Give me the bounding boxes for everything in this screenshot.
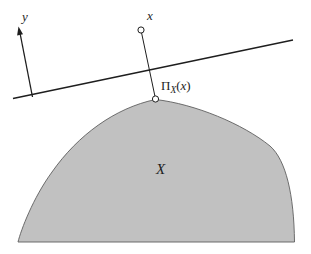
y-axis-line (20, 31, 33, 97)
diagram-canvas: y x ΠX(x) X (0, 0, 311, 254)
projection-label-close-paren: ) (186, 78, 190, 93)
projection-segment (142, 33, 155, 96)
point-x-marker (138, 27, 144, 33)
set-x-label: X (155, 161, 166, 177)
y-axis-arrowhead-icon (17, 27, 23, 36)
projection-diagram-svg: y x ΠX(x) X (0, 0, 311, 254)
y-axis-label: y (20, 9, 28, 24)
projection-label-pi: Π (161, 78, 170, 93)
projection-point-marker (152, 96, 158, 102)
projection-label: ΠX(x) (161, 78, 191, 95)
point-x-label: x (146, 8, 153, 23)
hyperplane-line (13, 40, 293, 99)
